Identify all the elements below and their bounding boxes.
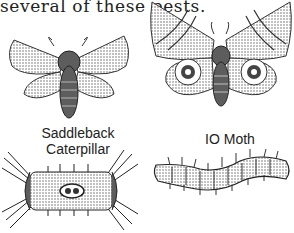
- label-line-1: Saddleback: [38, 125, 118, 141]
- saddleback-caterpillar-illustration: [0, 150, 140, 233]
- io-moth-illustration: [148, 0, 294, 112]
- io-caterpillar-illustration: [150, 145, 294, 205]
- saddleback-moth-illustration: [4, 32, 134, 124]
